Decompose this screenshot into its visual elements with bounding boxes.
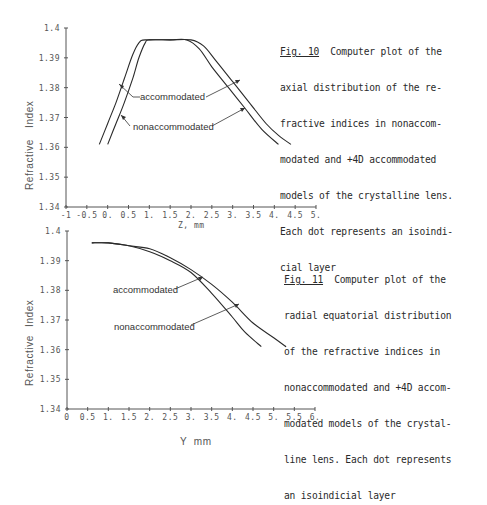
x-tick-label: 2. <box>144 413 155 422</box>
fig11-caption-line: nonaccommodated and +4D accom- <box>284 382 451 394</box>
x-tick-label: 1.5 <box>121 413 137 422</box>
x-tick-label: 2. <box>186 211 197 220</box>
x-tick-label: 4. <box>269 211 280 220</box>
x-tick-label: 0.5 <box>80 413 96 422</box>
y-tick-label: 1.34 <box>39 203 60 212</box>
fig10-y-ticks: 1.341.351.361.371.381.391.4 <box>39 24 68 212</box>
x-tick-label: 3.5 <box>204 413 220 422</box>
x-tick-label: 2.5 <box>162 413 178 422</box>
fig10-nonaccommodated-label: nonaccommodated <box>133 121 214 132</box>
fig11-caption: Fig. 11 Computer plot of the radial equa… <box>284 250 451 505</box>
y-tick-label: 1.35 <box>39 173 60 182</box>
y-tick-label: 1.4 <box>45 227 61 236</box>
fig10-ref: Fig. 10 <box>280 46 319 57</box>
x-tick-label: 5. <box>268 413 279 422</box>
fig10-caption-line: axial distribution of the re- <box>280 82 453 94</box>
fig10-caption-line: Fig. 10 Computer plot of the <box>280 46 453 58</box>
fig10-accommodated-leader-right <box>206 80 240 97</box>
fig10-ylabel-index: Index <box>24 101 35 128</box>
x-tick-label: 0. <box>102 211 113 220</box>
fig10-chart: 1.341.351.361.371.381.391.4 -1-0.50.0.51… <box>24 24 321 230</box>
x-tick-label: -0.5 <box>76 211 97 220</box>
y-tick-label: 1.38 <box>40 286 61 295</box>
fig10-accommodated-label: accommodated <box>140 91 205 102</box>
y-tick-label: 1.36 <box>39 143 60 152</box>
x-tick-label: 4.5 <box>245 413 261 422</box>
y-tick-label: 1.37 <box>40 316 61 325</box>
fig11-y-ticks: 1.341.351.361.371.381.391.4 <box>40 227 69 414</box>
fig11-accommodated-leader <box>175 277 203 289</box>
fig10-xlabel: Z, mm <box>178 221 205 230</box>
x-tick-label: 0 <box>64 413 69 422</box>
fig11-ylabel-refractive: Refractive <box>24 335 35 386</box>
x-tick-label: 3. <box>186 413 197 422</box>
fig11-ref: Fig. 11 <box>284 274 323 285</box>
x-tick-label: 1. <box>144 211 155 220</box>
y-tick-label: 1.34 <box>40 405 61 414</box>
fig11-nonaccommodated-leader <box>191 304 239 325</box>
y-tick-label: 1.35 <box>40 375 61 384</box>
x-tick-label: 1. <box>103 413 114 422</box>
x-tick-label: 0.5 <box>121 211 137 220</box>
fig10-caption-line: fractive indices in nonaccom- <box>280 118 453 130</box>
x-tick-label: 1.5 <box>162 211 178 220</box>
fig11-accommodated-label: accommodated <box>113 284 178 295</box>
y-tick-label: 1.38 <box>39 84 60 93</box>
y-tick-label: 1.39 <box>40 257 61 266</box>
y-tick-label: 1.37 <box>39 114 60 123</box>
x-tick-label: 4. <box>227 413 238 422</box>
fig10-nonaccommodated-leader-right <box>212 108 245 126</box>
fig11-caption-line: radial equatorial distribution <box>284 310 451 322</box>
fig10-ylabel-refractive: Refractive <box>24 139 35 190</box>
fig11-caption-line: Fig. 11 Computer plot of the <box>284 274 451 286</box>
x-tick-label: 3.5 <box>246 211 262 220</box>
fig10-caption-line: models of the crystalline lens. <box>280 190 453 202</box>
fig10-caption-line: modated and +4D accommodated <box>280 154 453 166</box>
y-tick-label: 1.36 <box>40 346 61 355</box>
y-tick-label: 1.39 <box>39 54 60 63</box>
x-tick-label: 2.5 <box>204 211 220 220</box>
fig11-chart: 1.341.351.361.371.381.391.4 00.51.1.52.2… <box>24 227 320 447</box>
y-tick-label: 1.4 <box>44 24 60 33</box>
fig11-nonaccommodated-label: nonaccommodated <box>114 321 195 332</box>
x-tick-label: 3. <box>227 211 238 220</box>
fig11-ylabel-index: Index <box>24 300 35 327</box>
fig11-caption-line: line lens. Each dot represents <box>284 454 451 466</box>
fig10-caption-line: Each dot represents an isoindi- <box>280 226 453 238</box>
fig11-caption-line: modated models of the crystal- <box>284 418 451 430</box>
fig11-caption-line: of the refractive indices in <box>284 346 451 358</box>
fig10-arrowhead <box>121 115 126 120</box>
x-tick-label: -1 <box>61 211 72 220</box>
fig11-xlabel: Y mm <box>180 436 212 447</box>
fig11-caption-line: an isoindicial layer <box>284 490 451 502</box>
